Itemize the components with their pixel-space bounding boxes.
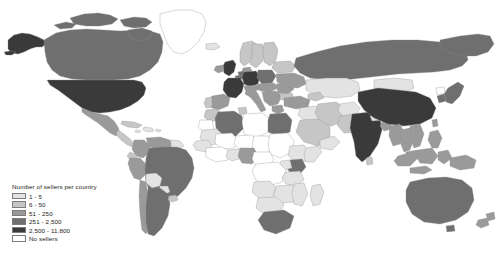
legend-title: Number of sellers per country xyxy=(12,183,132,191)
legend-label-no-sellers: No sellers xyxy=(29,235,58,242)
country-region-greece xyxy=(272,105,284,114)
legend-label-251-2500: 251 - 2,500 xyxy=(29,218,62,225)
country-region-greenland xyxy=(160,10,206,54)
country-region-alaska xyxy=(8,33,46,54)
country-region-italy xyxy=(245,88,266,112)
world-map-figure: Number of sellers per country 1 - 5 6 - … xyxy=(0,0,498,256)
country-region-angola xyxy=(252,181,276,199)
country-region-jamaica xyxy=(135,130,141,133)
country-region-taiwan xyxy=(432,119,438,127)
country-region-new-zealand-south xyxy=(476,218,489,228)
legend-item-2500-11800: 2,500 - 11,800 xyxy=(12,226,132,234)
country-region-central-america xyxy=(116,130,134,147)
country-region-turkey xyxy=(284,96,310,109)
country-region-madagascar xyxy=(310,184,324,206)
country-region-portugal xyxy=(204,97,212,108)
country-region-united-kingdom xyxy=(223,60,236,76)
legend-item-6-50: 6 - 50 xyxy=(12,201,132,209)
country-region-algeria xyxy=(215,111,244,136)
country-region-aleutians xyxy=(4,51,16,55)
country-region-north-korea xyxy=(436,87,445,95)
country-region-puerto-rico xyxy=(156,129,161,132)
legend-label-1-5: 1 - 5 xyxy=(29,193,42,200)
country-region-canada-arctic-3 xyxy=(54,22,76,29)
country-region-iceland xyxy=(206,43,220,50)
legend-label-51-250: 51 - 250 xyxy=(29,210,53,217)
country-region-libya xyxy=(242,113,270,138)
country-region-indonesia-borneo xyxy=(416,148,438,164)
country-region-mozambique xyxy=(292,183,308,206)
country-region-australia xyxy=(406,177,474,224)
country-region-belarus-baltics xyxy=(272,61,296,73)
legend-swatch-251-2500 xyxy=(12,218,26,225)
country-region-poland xyxy=(257,70,276,84)
legend-label-6-50: 6 - 50 xyxy=(29,201,46,208)
legend-item-1-5: 1 - 5 xyxy=(12,192,132,200)
country-region-somalia xyxy=(304,146,322,162)
country-region-germany xyxy=(242,71,260,87)
legend-swatch-6-50 xyxy=(12,201,26,208)
legend-swatch-2500-11800 xyxy=(12,227,26,234)
legend-swatch-51-250 xyxy=(12,210,26,217)
country-region-papua-new-guinea xyxy=(450,155,476,170)
country-region-south-africa xyxy=(258,210,294,234)
country-region-vietnam-laos-cambodia xyxy=(410,124,424,148)
country-region-united-states xyxy=(47,80,146,113)
country-region-philippines xyxy=(428,130,442,148)
country-region-peru xyxy=(128,158,146,180)
legend-label-2500-11800: 2,500 - 11,800 xyxy=(29,227,70,234)
country-region-argentina xyxy=(146,188,170,236)
country-region-canada-arctic-1 xyxy=(70,13,118,26)
country-region-cuba xyxy=(121,121,142,128)
country-region-japan xyxy=(444,82,464,104)
country-region-ireland xyxy=(214,65,224,73)
country-region-france xyxy=(223,78,244,98)
country-region-hispaniola xyxy=(143,127,154,132)
country-region-egypt xyxy=(268,113,292,136)
legend-swatch-no-sellers xyxy=(12,235,26,242)
legend-item-51-250: 51 - 250 xyxy=(12,209,132,217)
country-region-tasmania xyxy=(446,225,455,232)
country-region-czech-slovakia-hungary xyxy=(258,83,278,92)
country-region-sri-lanka xyxy=(366,157,373,165)
country-region-west-africa-coast xyxy=(206,147,230,162)
country-region-canada-arctic-2 xyxy=(120,17,152,28)
legend-item-no-sellers: No sellers xyxy=(12,235,132,243)
legend-item-251-2500: 251 - 2,500 xyxy=(12,218,132,226)
legend-swatch-1-5 xyxy=(12,193,26,200)
map-legend: Number of sellers per country 1 - 5 6 - … xyxy=(12,183,132,243)
country-region-indonesia-java xyxy=(410,166,432,174)
